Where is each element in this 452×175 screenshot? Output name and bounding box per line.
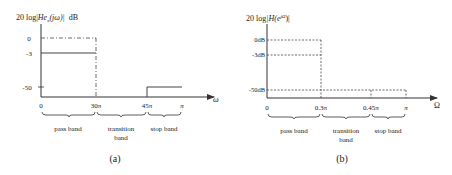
panel-b-stop-band: stop band xyxy=(374,127,402,135)
panel-b-ytick-50db: -50dB xyxy=(249,86,266,93)
panel-b-xtick-0.3pi: 0.3π xyxy=(315,104,328,112)
panel-b-xtick-pi: π xyxy=(404,104,408,112)
panel-a-y-label: 20 log|Hea(jω)|dB xyxy=(16,13,78,23)
panel-b-transition-band-2: band xyxy=(339,136,353,144)
panel-a-stopband-line xyxy=(147,87,182,97)
panel-a-stop-band: stop band xyxy=(150,125,178,133)
panel-a-caption: (a) xyxy=(109,153,120,165)
panel-a: 20 log|Hea(jω)|dB 0 -3 -50 0 30π 45π π ω… xyxy=(16,13,219,165)
panel-b-band-braces xyxy=(268,114,405,119)
panel-a-transition-band-2: band xyxy=(114,134,128,142)
filter-spec-diagram: 20 log|Hea(jω)|dB 0 -3 -50 0 30π 45π π ω… xyxy=(0,0,452,175)
panel-a-band-braces xyxy=(42,112,181,117)
panel-a-ytick-0: 0 xyxy=(27,35,31,43)
panel-b: 20 log|H(ejΩ)| 0dB -3dB -50dB 0 0.3π 0.4… xyxy=(246,14,440,165)
panel-a-pass-band: pass band xyxy=(54,125,82,133)
panel-a-transition-band: transition xyxy=(108,125,135,133)
panel-b-transition-band: transition xyxy=(333,127,360,135)
panel-b-ytick-0db: 0dB xyxy=(254,36,266,43)
panel-b-xtick-0.45pi: 0.45π xyxy=(363,104,379,112)
panel-a-ytick-3: -3 xyxy=(26,50,32,58)
panel-b-caption: (b) xyxy=(336,153,348,165)
panel-b-ytick-3db: -3dB xyxy=(252,51,266,58)
panel-a-xtick-45pi: 45π xyxy=(142,102,153,110)
panel-b-x-label: Ω xyxy=(434,101,440,110)
panel-b-y-label: 20 log|H(ejΩ)| xyxy=(246,14,290,23)
panel-a-xtick-30pi: 30π xyxy=(91,102,102,110)
panel-a-xtick-pi: π xyxy=(180,102,184,110)
panel-a-x-label: ω xyxy=(213,95,219,104)
panel-a-ytick-50: -50 xyxy=(22,84,32,92)
panel-b-pass-band: pass band xyxy=(280,127,308,135)
panel-b-xtick-0: 0 xyxy=(265,104,269,112)
panel-a-xtick-0: 0 xyxy=(39,102,43,110)
